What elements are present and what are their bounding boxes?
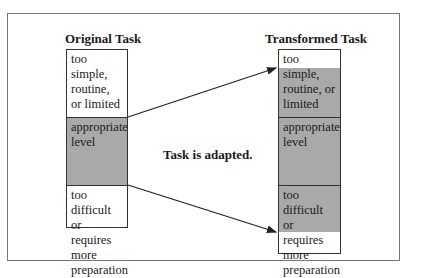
arrow-up-icon xyxy=(128,68,276,117)
arrow-down-icon xyxy=(128,185,276,232)
arrows xyxy=(0,0,421,278)
